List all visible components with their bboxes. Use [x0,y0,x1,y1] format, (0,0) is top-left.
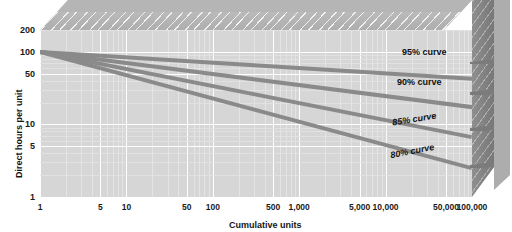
gridline-horizontal [40,30,472,31]
x-tick-label: 1,000 [269,202,329,212]
gridline-horizontal [40,141,472,142]
gridline-horizontal [40,136,472,137]
gridline-horizontal [40,162,472,163]
y-tick-label: 1 [0,192,35,202]
y-axis-title: Direct hours per unit [14,89,24,178]
gridline-horizontal [40,175,472,176]
curve-label-95: 95% curve [402,47,447,57]
gridline-horizontal [40,90,472,91]
x-tick-label: 1 [10,202,70,212]
y-tick-label: 50 [0,69,35,79]
x-tick-label: 100 [183,202,243,212]
gridline-horizontal [40,128,472,129]
gridline-horizontal [40,103,472,104]
x-tick-label: 10,000 [356,202,416,212]
block-right-outer [494,0,510,190]
x-tick-label: 100,000 [442,202,502,212]
x-axis-title: Cumulative units [229,220,302,230]
block-top-shade [40,0,472,12]
curve-label-90: 90% curve [397,77,442,87]
x-tick-label: 10 [96,202,156,212]
y-tick-label: 100 [0,47,35,57]
chart-figure: 200100501051 1510501005001,0005,00010,00… [0,0,512,232]
y-tick-label: 200 [0,25,35,35]
gridline-horizontal [40,131,472,132]
